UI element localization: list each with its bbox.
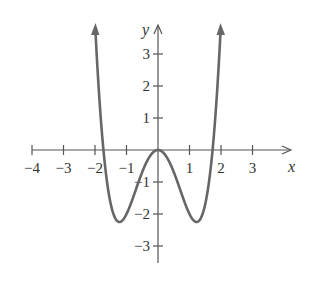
x-tick-label: 3 xyxy=(249,160,257,176)
function-graph: −4−3−2−1123321−1−2−3xy xyxy=(0,0,316,282)
x-axis-label: x xyxy=(287,158,295,175)
y-tick-label: −3 xyxy=(134,238,150,254)
y-tick-label: 2 xyxy=(143,78,151,94)
x-tick-label: −2 xyxy=(87,160,103,176)
y-axis-label: y xyxy=(140,21,150,39)
y-tick-label: −2 xyxy=(134,206,150,222)
x-tick-label: −1 xyxy=(119,160,135,176)
x-tick-label: 1 xyxy=(186,160,194,176)
x-tick-label: 2 xyxy=(217,160,225,176)
curve-arrow-right-icon xyxy=(217,23,226,35)
x-tick-label: −4 xyxy=(24,160,40,176)
curve-arrow-left-icon xyxy=(91,23,100,35)
y-tick-label: 1 xyxy=(143,110,151,126)
x-tick-label: −3 xyxy=(56,160,72,176)
y-tick-label: 3 xyxy=(143,46,151,62)
